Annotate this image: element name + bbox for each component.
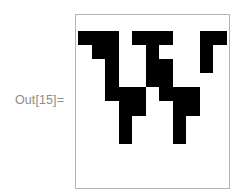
array-plot-frame[interactable] (75, 14, 230, 189)
plot-cell-off (200, 101, 214, 115)
plot-cell-off (132, 116, 146, 130)
plot-cell-on (119, 87, 133, 101)
plot-cell-off (92, 144, 106, 158)
plot-cell-off (132, 73, 146, 87)
plot-cell-off (119, 31, 133, 45)
plot-cell-off (200, 172, 214, 186)
plot-cell-off (132, 59, 146, 73)
plot-cell-off (92, 59, 106, 73)
plot-cell-off (186, 144, 200, 158)
plot-cell-on (105, 87, 119, 101)
plot-cell-off (92, 101, 106, 115)
plot-cell-off (105, 172, 119, 186)
plot-cell-on (78, 31, 92, 45)
plot-cell-off (92, 87, 106, 101)
plot-cell-off (146, 130, 160, 144)
plot-cell-off (92, 116, 106, 130)
plot-cell-off (146, 172, 160, 186)
plot-cell-off (92, 130, 106, 144)
plot-cell-on (213, 31, 227, 45)
plot-cell-on (132, 101, 146, 115)
plot-cell-on (132, 87, 146, 101)
plot-cell-on (186, 87, 200, 101)
plot-cell-off (173, 172, 187, 186)
plot-cell-off (159, 172, 173, 186)
plot-cell-off (78, 73, 92, 87)
plot-cell-on (146, 59, 160, 73)
plot-cell-off (173, 59, 187, 73)
plot-cell-off (159, 45, 173, 59)
plot-cell-off (146, 87, 160, 101)
plot-cell-off (132, 158, 146, 172)
plot-cell-off (105, 130, 119, 144)
plot-cell-off (159, 158, 173, 172)
plot-cell-on (105, 59, 119, 73)
plot-cell-off (119, 172, 133, 186)
plot-cell-off (132, 130, 146, 144)
plot-cell-on (92, 31, 106, 45)
plot-cell-off (159, 144, 173, 158)
plot-cell-on (92, 45, 106, 59)
plot-cell-off (78, 144, 92, 158)
plot-cell-off (119, 158, 133, 172)
plot-cell-off (119, 144, 133, 158)
plot-cell-on (173, 101, 187, 115)
plot-cell-on (186, 101, 200, 115)
plot-cell-off (78, 172, 92, 186)
plot-cell-off (105, 101, 119, 115)
plot-cell-off (105, 158, 119, 172)
plot-cell-on (159, 31, 173, 45)
plot-cell-on (146, 73, 160, 87)
plot-cell-off (213, 101, 227, 115)
plot-cell-on (200, 45, 214, 59)
plot-cell-off (92, 158, 106, 172)
plot-cell-on (105, 73, 119, 87)
plot-cell-off (200, 73, 214, 87)
plot-cell-off (78, 158, 92, 172)
plot-cell-off (78, 130, 92, 144)
plot-cell-off (186, 31, 200, 45)
plot-cell-on (173, 130, 187, 144)
plot-cell-off (132, 172, 146, 186)
plot-cell-off (105, 144, 119, 158)
plot-cell-off (200, 144, 214, 158)
plot-cell-off (78, 101, 92, 115)
plot-cell-off (213, 59, 227, 73)
plot-cell-on (173, 116, 187, 130)
plot-cell-off (200, 130, 214, 144)
plot-cell-off (200, 158, 214, 172)
plot-cell-off (186, 130, 200, 144)
plot-cell-off (213, 73, 227, 87)
plot-cell-on (105, 45, 119, 59)
plot-cell-off (200, 116, 214, 130)
plot-cell-off (186, 59, 200, 73)
plot-cell-on (119, 130, 133, 144)
plot-cell-off (213, 87, 227, 101)
plot-cell-on (119, 116, 133, 130)
plot-cell-off (146, 158, 160, 172)
plot-cell-on (159, 59, 173, 73)
plot-cell-off (132, 45, 146, 59)
plot-cell-off (146, 144, 160, 158)
plot-cell-off (186, 172, 200, 186)
array-plot-grid (78, 31, 227, 186)
plot-cell-off (186, 73, 200, 87)
plot-cell-off (186, 158, 200, 172)
plot-cell-off (213, 45, 227, 59)
plot-cell-off (173, 158, 187, 172)
plot-cell-off (213, 158, 227, 172)
plot-cell-on (146, 45, 160, 59)
plot-cell-off (105, 116, 119, 130)
plot-cell-off (186, 45, 200, 59)
plot-cell-off (159, 130, 173, 144)
plot-cell-on (200, 59, 214, 73)
plot-cell-off (173, 144, 187, 158)
plot-cell-off (78, 45, 92, 59)
plot-cell-off (119, 73, 133, 87)
plot-cell-off (78, 116, 92, 130)
output-cell-label: Out[15]= (15, 93, 64, 107)
plot-cell-off (213, 172, 227, 186)
plot-cell-on (105, 31, 119, 45)
plot-cell-on (159, 73, 173, 87)
plot-cell-off (119, 45, 133, 59)
